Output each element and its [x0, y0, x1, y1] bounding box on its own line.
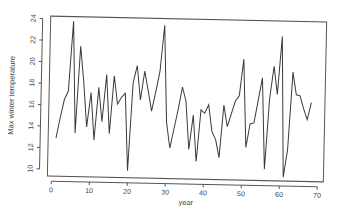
- y-tick-label: 12: [27, 143, 34, 151]
- y-axis-line: [40, 18, 43, 168]
- x-tick-label: 0: [49, 186, 53, 193]
- chart: 1012141618202224 010203040506070 year Ma…: [0, 0, 337, 223]
- x-tick-label: 20: [123, 188, 131, 195]
- x-tick-label: 70: [313, 192, 321, 199]
- x-tick-label: 60: [275, 191, 283, 198]
- plot-frame: [47, 16, 326, 182]
- y-tick-label: 10: [26, 165, 33, 173]
- y-tick-label: 20: [29, 57, 36, 65]
- x-tick-label: 50: [237, 190, 245, 197]
- x-tick-label: 30: [161, 188, 169, 195]
- y-tick-label: 14: [27, 122, 34, 130]
- y-tick-label: 16: [28, 100, 35, 108]
- data-line: [55, 21, 313, 178]
- y-tick-label: 22: [29, 36, 36, 44]
- y-axis: 1012141618202224: [26, 14, 42, 173]
- line-chart: 1012141618202224 010203040506070 year Ma…: [0, 0, 337, 223]
- x-axis: 010203040506070: [49, 181, 321, 199]
- y-tick-label: 24: [30, 14, 37, 22]
- y-tick-label: 18: [28, 79, 35, 87]
- y-axis-title: Max winter temperature: [6, 56, 17, 135]
- x-axis-title: year: [178, 198, 193, 207]
- x-tick-label: 40: [199, 189, 207, 196]
- x-axis-line: [51, 181, 317, 187]
- x-tick-label: 10: [85, 187, 93, 194]
